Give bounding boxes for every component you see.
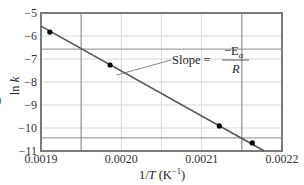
cropped-paren-fragment: ) — [0, 93, 1, 107]
annotation-leader-line — [117, 60, 171, 75]
y-tick-label: −10 — [18, 121, 37, 135]
data-point — [250, 140, 255, 145]
x-tick-label: 0.0021 — [185, 152, 218, 166]
x-tick-label: 0.0019 — [25, 152, 58, 166]
data-point — [107, 62, 112, 67]
grid-lines — [41, 13, 282, 151]
slope-label: Slope = — [172, 53, 211, 67]
x-axis-label: 1/T (K−1) — [139, 166, 185, 182]
x-tick-label: 0.0020 — [105, 152, 138, 166]
x-tick-label: 0.0022 — [266, 152, 299, 166]
y-axis-label: ln k — [8, 76, 22, 95]
x-axis-ticks: 0.00190.00200.00210.0022 — [25, 152, 299, 166]
data-point — [47, 29, 52, 34]
data-point — [217, 123, 222, 128]
y-tick-label: −9 — [24, 98, 37, 112]
y-tick-label: −6 — [24, 29, 37, 43]
y-tick-label: −5 — [24, 6, 37, 20]
y-tick-label: −8 — [24, 75, 37, 89]
slope-numerator: −Ea — [224, 44, 244, 60]
slope-denominator: R — [231, 62, 240, 76]
y-tick-label: −7 — [24, 52, 37, 66]
arrhenius-plot: −5−6−7−8−9−10−11 0.00190.00200.00210.002… — [0, 0, 304, 185]
